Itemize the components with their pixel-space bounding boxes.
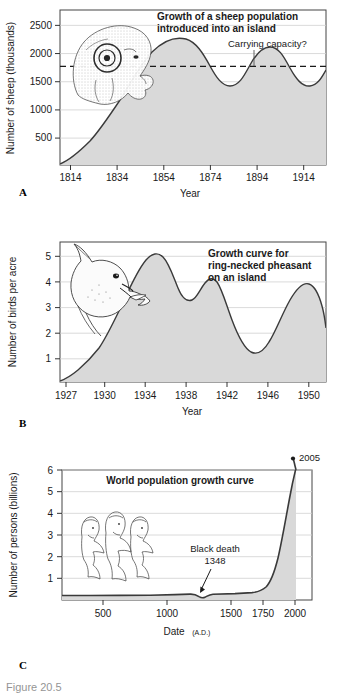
panel-a-sheep-chart: 2500 2000 1500 1000 500 Number of sheep … [0,0,340,210]
x-tick-label: 1750 [252,608,275,619]
panel-letter-c: C [19,659,27,671]
y-tick-label: 500 [35,132,52,143]
x-tick-label: 1942 [216,390,239,401]
x-tick-label: 1946 [257,390,280,401]
black-death-annotation-line2: 1348 [204,555,225,566]
y-tick-label: 4 [45,277,51,288]
chart-title-line2: ring-necked pheasant [208,260,312,271]
x-tick-label: 1930 [94,390,117,401]
year-2005-marker [291,456,295,460]
carrying-capacity-annotation: Carrying capacity? [228,38,307,49]
chart-title-line3: on an island [208,272,266,283]
y-axis-ticks [57,470,62,578]
x-tick-label: 1934 [134,390,157,401]
x-axis-ticks [103,600,295,605]
black-death-annotation-line1: Black death [190,543,240,554]
y-axis-ticks [55,256,60,359]
year-2005-annotation: 2005 [299,452,320,463]
x-tick-label: 1914 [293,172,316,183]
x-axis-ticks [66,382,309,387]
y-tick-label: 5 [47,486,53,497]
x-tick-label: 500 [95,608,112,619]
pheasant-chart-layer: 5 4 3 2 1 Number of birds per acre 1927 … [0,210,340,440]
chart-title-line1: Growth curve for [208,248,289,259]
x-tick-label: 1938 [175,390,198,401]
x-tick-label: 1814 [59,172,82,183]
y-tick-label: 1500 [30,76,53,87]
x-axis-title: Year [182,406,203,417]
world-population-curve-extension [294,460,297,471]
x-tick-label: 1874 [199,172,222,183]
y-tick-label: 4 [47,508,53,519]
panel-letter-b: B [19,417,26,429]
panel-c-world-population-chart: 2005 Black death 1348 [0,440,340,691]
x-tick-label: 1927 [55,390,78,401]
x-axis-ticks [71,165,304,170]
y-tick-label: 3 [47,530,53,541]
figure-caption: Figure 20.5 [6,681,62,693]
panel-letter-a: A [19,186,27,198]
x-axis-title-suffix: (A.D.) [192,629,210,637]
chart-title: World population growth curve [106,475,254,486]
y-tick-label: 3 [45,302,51,313]
x-tick-label: 1500 [220,608,243,619]
y-axis-title: Number of birds per acre [7,256,18,367]
y-tick-label: 6 [47,465,53,476]
x-tick-label: 1834 [106,172,129,183]
world-population-chart-svg: 2005 Black death 1348 [0,440,340,691]
y-tick-label: 5 [45,251,51,262]
y-tick-label: 2 [47,552,53,563]
y-axis-title: Number of persons (billions) [8,472,19,597]
x-axis-title: Year [180,188,201,199]
y-tick-label: 1 [47,573,53,584]
x-axis-title-main: Date [164,626,186,637]
y-tick-label: 1 [45,353,51,364]
y-tick-label: 2 [45,328,51,339]
x-tick-label: 2000 [284,608,307,619]
x-tick-label: 1950 [298,390,321,401]
x-axis-title-group: Date (A.D.) [164,621,211,638]
y-axis-ticks [55,25,60,138]
chart-title-line2: introduced into an island [157,23,276,34]
panel-b-pheasant-chart: 5 4 3 2 1 Number of birds per acre 1927 … [0,210,340,440]
chart-title-line1: Growth of a sheep population [157,11,298,22]
y-tick-label: 2500 [30,20,53,31]
y-tick-label: 2000 [30,48,53,59]
x-tick-label: 1000 [156,608,179,619]
x-tick-label: 1854 [153,172,176,183]
y-tick-label: 1000 [30,104,53,115]
x-tick-label: 1894 [246,172,269,183]
y-axis-title: Number of sheep (thousands) [5,22,16,154]
sheep-chart-svg: 2500 2000 1500 1000 500 Number of sheep … [0,0,340,210]
